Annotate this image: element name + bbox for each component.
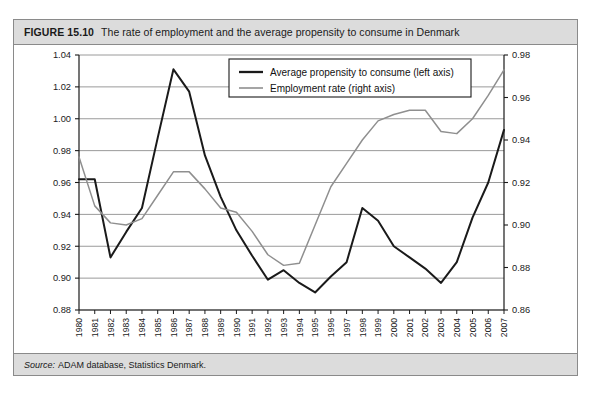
x-axis-tick-label: 1982 — [106, 318, 116, 337]
x-axis-tick-label: 1980 — [74, 318, 84, 337]
x-axis-tick-label: 1984 — [137, 318, 147, 337]
right-axis-tick-label: 0.88 — [512, 263, 530, 273]
x-axis-tick-label: 1997 — [342, 318, 352, 337]
right-axis-tick-label: 0.90 — [512, 220, 530, 230]
line-chart: 0.880.900.920.940.960.981.001.021.040.86… — [14, 45, 577, 353]
x-axis-tick-label: 2002 — [420, 318, 430, 337]
figure-title: The rate of employment and the average p… — [101, 26, 459, 38]
x-axis-tick-label: 1990 — [232, 318, 242, 337]
x-axis-tick-label: 1987 — [184, 318, 194, 337]
left-axis-tick-label: 0.98 — [53, 146, 71, 156]
x-axis-tick-label: 2001 — [405, 318, 415, 337]
right-axis-tick-label: 0.94 — [512, 135, 530, 145]
right-axis-tick-label: 0.98 — [512, 50, 530, 60]
left-axis-tick-label: 0.92 — [53, 242, 71, 252]
left-axis-tick-label: 0.88 — [53, 305, 71, 315]
chart-legend: Average propensity to consume (left axis… — [229, 59, 471, 97]
source-label: Source: — [24, 360, 55, 370]
x-axis-tick-label: 1993 — [279, 318, 289, 337]
left-axis-tick-label: 1.02 — [53, 82, 71, 92]
x-axis-tick-label: 1994 — [295, 318, 305, 337]
chart-area: 0.880.900.920.940.960.981.001.021.040.86… — [14, 45, 577, 353]
left-axis-tick-label: 0.90 — [53, 273, 71, 283]
x-axis-tick-label: 1992 — [263, 318, 273, 337]
legend-label-employment: Employment rate (right axis) — [270, 83, 395, 94]
x-axis-tick-label: 2007 — [499, 318, 509, 337]
x-axis-tick-label: 2005 — [468, 318, 478, 337]
figure-header: FIGURE 15.10 The rate of employment and … — [14, 20, 577, 45]
x-axis-tick-label: 1998 — [358, 318, 368, 337]
left-axis-tick-label: 0.96 — [53, 178, 71, 188]
left-axis-tick-label: 1.00 — [53, 114, 71, 124]
x-axis-tick-label: 1988 — [200, 318, 210, 337]
series-line-employment — [79, 70, 504, 265]
x-axis-tick-label: 2006 — [483, 318, 493, 337]
x-axis-tick-label: 1981 — [90, 318, 100, 337]
figure-source: Source: ADAM database, Statistics Denmar… — [14, 353, 577, 375]
x-axis-tick-label: 2000 — [389, 318, 399, 337]
figure-number: FIGURE 15.10 — [24, 26, 94, 38]
x-axis-tick-label: 1983 — [121, 318, 131, 337]
x-axis-tick-label: 1995 — [310, 318, 320, 337]
legend-label-apc: Average propensity to consume (left axis… — [270, 67, 454, 78]
left-axis-tick-label: 0.94 — [53, 210, 71, 220]
source-text: ADAM database, Statistics Denmark. — [58, 360, 206, 370]
right-axis-tick-label: 0.96 — [512, 93, 530, 103]
x-axis-tick-label: 1999 — [373, 318, 383, 337]
series-line-apc — [79, 69, 504, 292]
left-axis-tick-label: 1.04 — [53, 50, 71, 60]
figure-page: FIGURE 15.10 The rate of employment and … — [0, 0, 591, 405]
x-axis-tick-label: 1986 — [169, 318, 179, 337]
right-axis-tick-label: 0.86 — [512, 305, 530, 315]
x-axis-tick-label: 2003 — [436, 318, 446, 337]
figure-container: FIGURE 15.10 The rate of employment and … — [13, 19, 578, 376]
right-axis-tick-label: 0.92 — [512, 178, 530, 188]
x-axis-tick-label: 1985 — [153, 318, 163, 337]
x-axis-tick-label: 2004 — [452, 318, 462, 337]
x-axis-tick-label: 1996 — [326, 318, 336, 337]
x-axis-tick-label: 1991 — [247, 318, 257, 337]
x-axis-tick-label: 1989 — [216, 318, 226, 337]
